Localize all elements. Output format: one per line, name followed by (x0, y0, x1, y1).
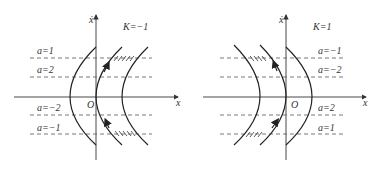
a-label: a=−2 (37, 102, 61, 113)
xdot-axis-label: ẋ (278, 14, 284, 25)
origin-label: O (291, 99, 298, 110)
hatch-marks-lower (115, 131, 135, 136)
left-curve-middle (96, 47, 122, 145)
left-curve-right (122, 47, 148, 145)
phase-portrait-figure: ẋ K=−1 x O a=1 a=2 a=−2 a=−1 ẋ (0, 0, 378, 172)
k-label: K=1 (312, 21, 331, 32)
a-label: a=−2 (318, 64, 342, 75)
xdot-axis-label: ẋ (88, 14, 94, 25)
right-curve-outer (286, 47, 312, 145)
left-curve-outer (70, 47, 96, 145)
k-label: K=−1 (122, 21, 148, 32)
left-panel: ẋ K=−1 x O a=1 a=2 a=−2 a=−1 (14, 14, 181, 160)
a-label: a=2 (37, 64, 54, 75)
a-label: a=−1 (318, 45, 342, 56)
x-axis-label: x (362, 97, 368, 108)
origin-label: O (87, 99, 94, 110)
right-curve-left (234, 45, 260, 145)
hatch-marks-upper (250, 56, 266, 61)
right-panel: ẋ K=1 x O a=−1 a=−2 a=2 a=1 (203, 14, 368, 160)
hatch-marks-upper (114, 56, 134, 61)
right-curve-middle (260, 45, 286, 145)
a-label: a=1 (318, 122, 335, 133)
a-label: a=1 (37, 45, 54, 56)
a-label: a=−1 (37, 122, 61, 133)
hatch-marks-lower (246, 132, 262, 137)
x-axis-label: x (175, 97, 181, 108)
a-label: a=2 (318, 102, 335, 113)
